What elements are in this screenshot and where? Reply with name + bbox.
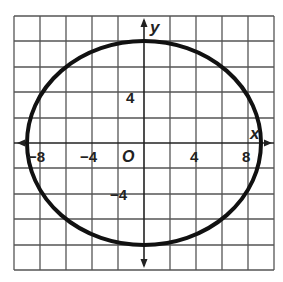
x-tick-4: 4 [190, 148, 199, 165]
x-axis-right-arrow-icon [264, 140, 272, 147]
y-tick-4: 4 [126, 89, 135, 106]
y-axis-up-arrow-icon [141, 18, 148, 27]
x-axis-label: x [249, 124, 261, 143]
y-axis-label: y [149, 18, 161, 37]
y-tick-neg4: −4 [110, 186, 128, 203]
x-tick-neg8: −8 [28, 148, 45, 165]
ellipse-graph: y x O −8 −4 4 8 4 −4 [0, 0, 283, 282]
y-axis-down-arrow-icon [141, 259, 148, 268]
origin-label: O [122, 148, 135, 165]
x-tick-neg4: −4 [80, 148, 98, 165]
axes [14, 20, 274, 266]
x-tick-8: 8 [242, 148, 250, 165]
x-axis-left-arrow-icon [17, 140, 25, 147]
